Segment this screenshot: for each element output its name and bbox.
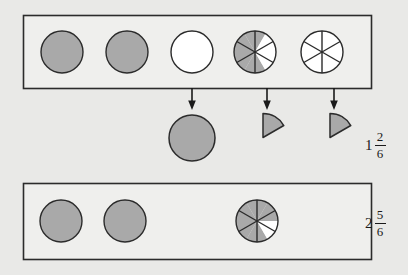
top-row-fraction: 2 6: [375, 130, 386, 160]
circle-5: [301, 31, 343, 73]
results-group: [169, 114, 351, 162]
circle-2: [106, 31, 148, 73]
bottom-row-whole-number: 2: [365, 216, 375, 231]
top-row-fraction-label: 1 2 6: [365, 130, 386, 160]
result-wedge-2: [330, 114, 351, 138]
circle-3: [171, 31, 213, 73]
result-circle: [169, 115, 215, 161]
arrow-3: [330, 88, 338, 110]
bottom-row-fraction-label: 2 5 6: [365, 208, 386, 238]
bottom-row-denominator: 6: [376, 225, 385, 239]
top-row-whole-number: 1: [365, 138, 375, 153]
circle-1: [41, 31, 83, 73]
diagram-svg: [0, 0, 408, 275]
bottom-row-fraction: 5 6: [375, 208, 386, 238]
result-wedge-1: [263, 114, 284, 138]
circle-7: [104, 200, 146, 242]
bottom-row-numerator: 5: [376, 208, 385, 222]
figure-canvas: [0, 0, 408, 275]
arrow-2: [263, 88, 271, 110]
top-row-numerator: 2: [376, 130, 385, 144]
arrow-1: [188, 88, 196, 110]
circle-4: [234, 31, 276, 73]
circle-6: [40, 200, 82, 242]
circle-8: [236, 200, 278, 242]
top-row-denominator: 6: [376, 147, 385, 161]
arrows-group: [188, 88, 338, 110]
top-row-group: [24, 16, 372, 89]
bottom-row-group: [24, 184, 372, 260]
